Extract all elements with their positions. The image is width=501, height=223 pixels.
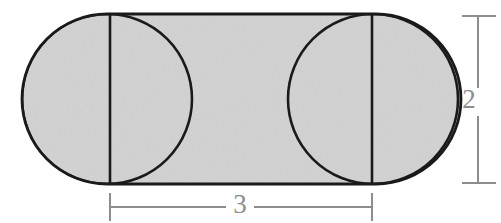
- width-dimension-label: 3: [233, 189, 247, 219]
- stadium-fill-group: [22, 14, 461, 184]
- height-dimension-label: 2: [462, 84, 476, 114]
- geometry-figure: 3 2: [0, 0, 501, 223]
- figure-canvas: 3 2: [0, 0, 501, 223]
- stadium-fill-texture: [22, 14, 461, 184]
